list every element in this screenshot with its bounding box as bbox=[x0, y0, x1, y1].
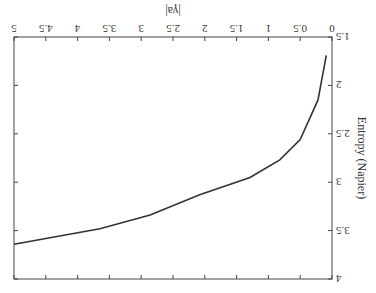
y-tick-label: 3 bbox=[138, 23, 144, 35]
x-tick-label: 1.5 bbox=[336, 31, 350, 43]
x-tick-label: 4 bbox=[336, 273, 342, 285]
y-tick-label: 4.5 bbox=[38, 23, 52, 35]
plot-frame bbox=[14, 37, 332, 279]
y-tick-label: 5 bbox=[11, 23, 17, 35]
data-curve bbox=[14, 55, 326, 244]
y-tick-label: 2.5 bbox=[166, 23, 180, 35]
rotated-figure: 00.511.522.533.544.551.522.533.54|γa|Ent… bbox=[0, 0, 376, 293]
y-tick-label: 4 bbox=[74, 23, 80, 35]
x-tick-label: 3 bbox=[336, 176, 342, 188]
x-tick-label: 2.5 bbox=[336, 128, 350, 140]
y-tick-label: 1 bbox=[266, 23, 272, 35]
x-tick-label: 2 bbox=[336, 79, 342, 91]
entropy-axis-label: Entropy (Napier) bbox=[355, 117, 369, 199]
y-tick-label: 2 bbox=[202, 23, 208, 35]
y-tick-label: 3.5 bbox=[102, 23, 116, 35]
value-axis-label: |γa| bbox=[165, 4, 180, 18]
line-chart: 00.511.522.533.544.551.522.533.54|γa|Ent… bbox=[0, 0, 376, 293]
x-tick-label: 3.5 bbox=[336, 225, 350, 237]
y-tick-label: 1.5 bbox=[229, 23, 243, 35]
y-tick-label: 0.5 bbox=[293, 23, 307, 35]
y-tick-label: 0 bbox=[329, 23, 335, 35]
